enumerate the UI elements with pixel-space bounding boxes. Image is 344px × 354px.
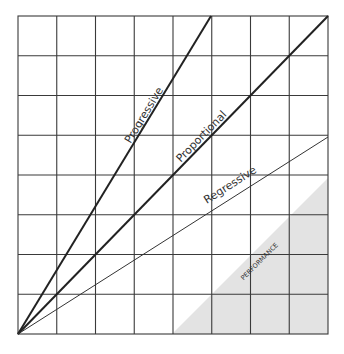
policy-diagram: Progressive Proportional Regressive PERF… (0, 0, 344, 354)
proportional-label: Proportional (174, 108, 230, 165)
progressive-label: Progressive (122, 85, 166, 146)
